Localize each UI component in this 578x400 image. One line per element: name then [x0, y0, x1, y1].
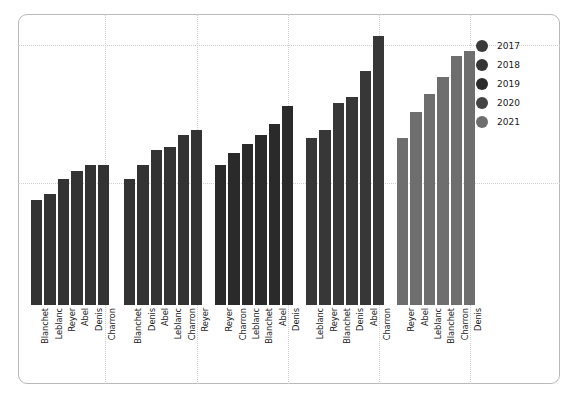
gridline-vertical-1 — [105, 14, 106, 384]
legend-label: 2017 — [497, 41, 520, 51]
legend-label: 2021 — [497, 117, 520, 127]
legend-item-2018[interactable]: 2018 — [476, 55, 560, 74]
gridline-vertical-5 — [470, 14, 471, 384]
legend-marker-icon — [476, 116, 488, 128]
legend-item-2020[interactable]: 2020 — [476, 93, 560, 112]
legend-label: 2018 — [497, 60, 520, 70]
gridline-vertical-4 — [379, 14, 380, 384]
legend-marker-icon — [476, 59, 488, 71]
legend: 20172018201920202021 — [476, 36, 560, 131]
gridline-vertical-3 — [288, 14, 289, 384]
legend-item-2017[interactable]: 2017 — [476, 36, 560, 55]
legend-label: 2020 — [497, 98, 520, 108]
legend-item-2019[interactable]: 2019 — [476, 74, 560, 93]
gridline-horizontal-lower — [18, 183, 560, 184]
bar-chart: BlanchetLeblancReyerAbelDenisCharronBlan… — [0, 0, 578, 400]
legend-label: 2019 — [497, 79, 520, 89]
legend-marker-icon — [476, 78, 488, 90]
legend-marker-icon — [476, 40, 488, 52]
legend-item-2021[interactable]: 2021 — [476, 112, 560, 131]
gridline-vertical-2 — [197, 14, 198, 384]
legend-marker-icon — [476, 97, 488, 109]
